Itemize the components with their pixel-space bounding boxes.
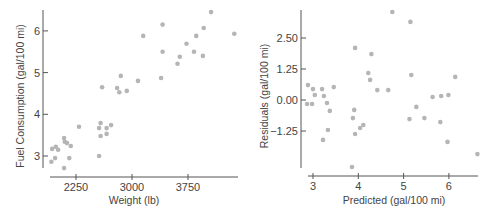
data-point xyxy=(56,147,61,152)
data-point xyxy=(69,144,74,149)
data-point xyxy=(422,116,427,121)
data-point xyxy=(232,32,237,37)
data-point xyxy=(326,128,331,133)
data-point xyxy=(115,86,120,91)
data-point xyxy=(98,121,103,126)
data-point xyxy=(369,52,374,57)
data-point xyxy=(390,10,395,15)
data-point xyxy=(194,34,199,39)
x-tick-label: 3 xyxy=(310,180,316,192)
y-axis-label: Residuals (gal/100 mi) xyxy=(258,44,270,148)
data-point xyxy=(306,83,311,88)
data-point xyxy=(201,26,206,31)
data-point xyxy=(49,160,54,165)
scatter-residuals-vs-predicted: 2.501.250.00−1.25 3456 Predicted (gal/10… xyxy=(258,10,480,206)
data-point xyxy=(175,62,180,67)
x-tick-label: 3750 xyxy=(176,181,200,193)
data-point xyxy=(65,141,70,146)
y-tick-label: 0.00 xyxy=(277,94,298,106)
data-point xyxy=(430,95,435,100)
y-axis-label: Fuel Consumption (gal/100 mi) xyxy=(14,24,26,168)
data-point xyxy=(321,138,326,143)
data-point xyxy=(325,101,330,106)
data-points xyxy=(305,10,480,170)
data-point xyxy=(375,88,380,93)
data-point xyxy=(136,79,141,84)
data-points xyxy=(49,10,237,171)
data-point xyxy=(328,109,333,114)
data-point xyxy=(160,22,165,27)
data-point xyxy=(352,108,357,113)
data-point xyxy=(353,46,358,51)
data-point xyxy=(62,166,67,171)
data-point xyxy=(361,123,366,128)
data-point xyxy=(160,50,165,55)
data-point xyxy=(332,85,337,90)
y-tick-label: 6 xyxy=(34,25,40,37)
data-point xyxy=(414,105,419,110)
data-point xyxy=(311,87,316,92)
data-point xyxy=(201,54,206,59)
data-point xyxy=(310,102,315,107)
data-point xyxy=(322,94,327,99)
y-tick-label: 5 xyxy=(34,67,40,79)
x-tick-label: 5 xyxy=(401,180,407,192)
data-point xyxy=(104,126,109,131)
data-point xyxy=(178,55,183,60)
data-point xyxy=(159,76,164,81)
x-tick-label: 4 xyxy=(355,180,361,192)
data-point xyxy=(353,132,358,137)
y-tick-label: −1.25 xyxy=(270,125,298,137)
y-tick-label: 1.25 xyxy=(277,63,298,75)
data-point xyxy=(475,152,480,157)
data-point xyxy=(98,134,103,139)
x-axis-label: Predicted (gal/100 mi) xyxy=(343,194,446,206)
x-tick-label: 3000 xyxy=(120,181,144,193)
data-point xyxy=(366,71,371,76)
scatter-weight-vs-fuel: 3456 225030003750 Weight (lb) Fuel Consu… xyxy=(14,10,238,206)
data-point xyxy=(104,132,109,137)
y-tick-label: 3 xyxy=(34,150,40,162)
y-tick-label: 2.50 xyxy=(277,32,298,44)
charts-canvas: 3456 225030003750 Weight (lb) Fuel Consu… xyxy=(0,0,492,218)
y-tick-label: 4 xyxy=(34,108,40,120)
data-point xyxy=(320,87,325,92)
data-point xyxy=(184,42,189,47)
data-point xyxy=(438,120,443,125)
y-ticks: 3456 xyxy=(34,25,48,162)
data-point xyxy=(192,50,197,55)
data-point xyxy=(386,88,391,93)
data-point xyxy=(368,78,373,83)
data-point xyxy=(439,94,444,99)
data-point xyxy=(446,93,451,98)
data-point xyxy=(209,10,214,15)
data-point xyxy=(117,90,122,95)
data-point xyxy=(100,85,105,90)
data-point xyxy=(67,156,72,161)
x-tick-label: 6 xyxy=(446,180,452,192)
data-point xyxy=(453,75,458,80)
data-point xyxy=(408,20,413,25)
data-point xyxy=(97,154,102,159)
data-point xyxy=(313,93,318,98)
data-point xyxy=(53,156,58,161)
data-point xyxy=(409,73,414,78)
data-point xyxy=(77,125,82,130)
data-point xyxy=(97,126,102,131)
data-point xyxy=(351,116,356,121)
data-point xyxy=(109,123,114,128)
data-point xyxy=(407,117,412,122)
data-point xyxy=(350,165,355,170)
x-axis-label: Weight (lb) xyxy=(109,194,160,206)
x-tick-label: 2250 xyxy=(64,181,88,193)
data-point xyxy=(141,34,146,39)
data-point xyxy=(125,89,130,94)
data-point xyxy=(445,140,450,145)
data-point xyxy=(305,102,310,107)
data-point xyxy=(119,74,124,79)
